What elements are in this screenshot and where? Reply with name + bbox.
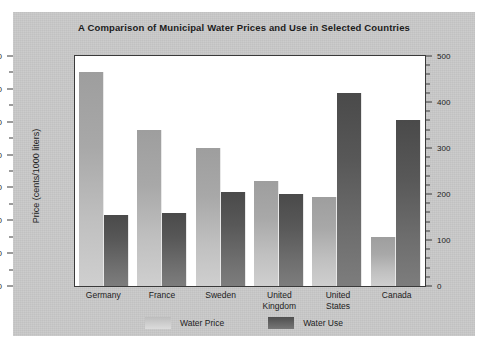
chart-page: A Comparison of Municipal Water Prices a…: [0, 0, 493, 349]
tick-mark: [426, 102, 432, 103]
tick-label: 200: [437, 190, 450, 199]
plot-area: [74, 55, 426, 287]
bar-water-use: [279, 194, 304, 286]
tick-label: 20: [0, 249, 2, 258]
bar-water-price: [196, 148, 221, 286]
tick-label: 100: [0, 117, 2, 126]
tick-mark: [426, 221, 430, 222]
tick-mark: [426, 258, 430, 259]
tick-mark: [426, 148, 432, 149]
bar-water-use: [337, 93, 362, 286]
tick-label: 500: [437, 52, 450, 61]
category-label: Germany: [74, 290, 133, 312]
tick-mark: [426, 120, 430, 121]
bar-water-use: [104, 215, 129, 286]
tick-mark: [426, 276, 430, 277]
tick-mark: [426, 240, 432, 241]
legend-swatch-water-price: [145, 317, 171, 329]
bar-water-use: [162, 213, 187, 286]
tick-mark: [426, 249, 430, 250]
tick-mark: [9, 203, 13, 204]
tick-mark: [426, 203, 430, 204]
tick-label: 0: [0, 282, 2, 291]
bar-water-price: [371, 237, 396, 286]
tick-label: 0: [437, 282, 441, 291]
category-label: Sweden: [191, 290, 250, 312]
bar-group: [192, 56, 250, 286]
tick-label: 80: [0, 150, 2, 159]
legend-item-water-price: Water Price: [145, 317, 224, 329]
tick-mark: [426, 83, 430, 84]
chart-panel: A Comparison of Municipal Water Prices a…: [13, 12, 475, 336]
left-axis: Price (cents/1000 liters) 02040608010012…: [13, 55, 74, 287]
category-label: France: [133, 290, 192, 312]
bar-group: [250, 56, 308, 286]
tick-mark: [426, 175, 430, 176]
tick-mark: [9, 236, 13, 237]
left-axis-title: Price (cents/1000 liters): [31, 91, 41, 261]
tick-mark: [426, 267, 430, 268]
category-label: UnitedKingdom: [250, 290, 309, 312]
bar-group: [308, 56, 366, 286]
tick-mark: [426, 166, 430, 167]
bar-group: [133, 56, 191, 286]
tick-label: 100: [437, 236, 450, 245]
category-label: UnitedStates: [309, 290, 368, 312]
tick-mark: [7, 121, 13, 122]
chart-title: A Comparison of Municipal Water Prices a…: [13, 22, 475, 33]
tick-mark: [426, 56, 432, 57]
bar-water-use: [396, 120, 421, 286]
legend-label-water-price: Water Price: [180, 318, 224, 328]
bar-water-use: [221, 192, 246, 286]
tick-label: 400: [437, 98, 450, 107]
tick-mark: [9, 171, 13, 172]
tick-label: 40: [0, 216, 2, 225]
chart-legend: Water Price Water Use: [13, 317, 475, 329]
tick-label: 60: [0, 183, 2, 192]
tick-mark: [7, 253, 13, 254]
tick-mark: [426, 74, 430, 75]
tick-mark: [426, 157, 430, 158]
category-labels: GermanyFranceSwedenUnitedKingdomUnitedSt…: [74, 290, 426, 312]
tick-label: 120: [0, 84, 2, 93]
tick-mark: [426, 286, 432, 287]
bar-water-price: [137, 130, 162, 286]
bar-group: [367, 56, 425, 286]
tick-mark: [426, 184, 430, 185]
tick-mark: [9, 138, 13, 139]
bar-water-price: [312, 197, 337, 286]
bar-water-price: [254, 181, 279, 286]
tick-mark: [426, 230, 430, 231]
tick-mark: [426, 92, 430, 93]
tick-mark: [9, 72, 13, 73]
bar-group-container: [75, 56, 425, 286]
tick-mark: [7, 220, 13, 221]
tick-mark: [9, 105, 13, 106]
tick-mark: [7, 56, 13, 57]
category-label: Canada: [367, 290, 426, 312]
tick-mark: [426, 194, 432, 195]
bar-water-price: [79, 72, 104, 286]
legend-label-water-use: Water Use: [303, 318, 343, 328]
tick-mark: [426, 129, 430, 130]
tick-mark: [7, 154, 13, 155]
tick-mark: [9, 269, 13, 270]
legend-item-water-use: Water Use: [268, 317, 343, 329]
tick-label: 300: [437, 144, 450, 153]
tick-mark: [426, 138, 430, 139]
legend-swatch-water-use: [268, 317, 294, 329]
bar-group: [75, 56, 133, 286]
tick-mark: [7, 187, 13, 188]
tick-mark: [7, 88, 13, 89]
tick-label: 140: [0, 52, 2, 61]
tick-mark: [426, 212, 430, 213]
tick-mark: [426, 111, 430, 112]
tick-mark: [426, 65, 430, 66]
tick-mark: [7, 286, 13, 287]
right-axis: Use (liters/person/day) 0100200300400500: [426, 55, 488, 287]
